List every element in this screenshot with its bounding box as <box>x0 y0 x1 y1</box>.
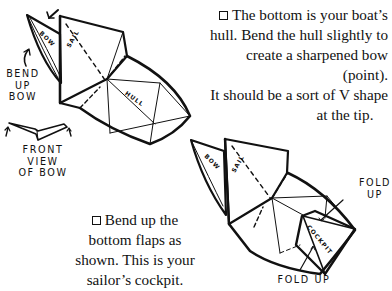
instruction-2-line-3: shown. This is your <box>75 251 195 268</box>
instruction-2-line-1: Bend up the <box>105 211 178 228</box>
checkbox-icon[interactable] <box>92 216 101 225</box>
instruction-1-line-3: create a sharpened bow (point). <box>246 46 388 83</box>
label-line: BOW <box>9 91 37 102</box>
label-line: UP <box>15 80 31 91</box>
label-line: VIEW <box>27 156 58 167</box>
instruction-2-line-2: bottom flaps as <box>89 231 182 248</box>
instruction-1: The bottom is your boat’s hull. Bend the… <box>206 5 388 125</box>
label-line: BEND <box>6 68 40 79</box>
instruction-1-line-1: The bottom is your boat’s <box>232 6 388 23</box>
instruction-2: Bend up the bottom flaps as shown. This … <box>74 210 196 290</box>
instruction-1-line-4: It should be a sort of V shape <box>210 86 388 103</box>
fold-up-label-top: FOLD UP <box>355 177 392 200</box>
label-line: FRONT <box>23 144 64 155</box>
bend-up-bow-label: BEND UP BOW <box>4 68 42 103</box>
instruction-1-line-2: hull. Bend the hull slightly to <box>210 26 388 43</box>
fold-up-label-bottom: FOLD UP <box>268 274 340 286</box>
label-line: UP <box>367 189 383 200</box>
label-line: OF BOW <box>18 167 67 178</box>
instruction-1-line-5: at the tip. <box>206 105 388 125</box>
instruction-2-line-4: sailor’s cockpit. <box>87 271 184 288</box>
front-view-of-bow-label: FRONT VIEW OF BOW <box>14 144 72 179</box>
checkbox-icon[interactable] <box>219 11 228 20</box>
label-line: FOLD <box>359 177 391 188</box>
